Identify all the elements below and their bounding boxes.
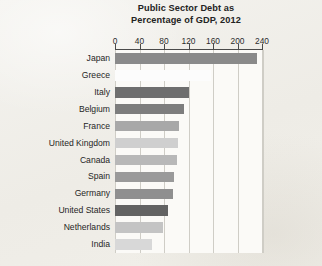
bar-spain xyxy=(115,172,174,183)
bar-row: Italy xyxy=(0,84,322,101)
chart-figure: Public Sector Debt as Percentage of GDP,… xyxy=(0,0,322,266)
bar-label-germany: Germany xyxy=(0,185,110,202)
chart-title: Public Sector Debt as Percentage of GDP,… xyxy=(96,3,276,26)
bar-netherlands xyxy=(115,222,163,233)
bar-row: India xyxy=(0,236,322,253)
bar-row: United Kingdom xyxy=(0,135,322,152)
bar-india xyxy=(115,239,152,250)
bar-row: United States xyxy=(0,202,322,219)
chart-title-line-2: Percentage of GDP, 2012 xyxy=(96,15,276,27)
bar-row: Canada xyxy=(0,152,322,169)
bar-label-united-kingdom: United Kingdom xyxy=(0,135,110,152)
bar-label-italy: Italy xyxy=(0,84,110,101)
chart-title-line-1: Public Sector Debt as xyxy=(96,3,276,15)
bar-label-belgium: Belgium xyxy=(0,101,110,118)
bar-row: Netherlands xyxy=(0,219,322,236)
bar-row: Spain xyxy=(0,168,322,185)
bar-greece xyxy=(115,70,211,81)
bar-canada xyxy=(115,155,177,166)
bar-italy xyxy=(115,87,189,98)
bar-label-india: India xyxy=(0,236,110,253)
bar-row: Belgium xyxy=(0,101,322,118)
bar-germany xyxy=(115,189,173,200)
bar-row: France xyxy=(0,118,322,135)
bar-united-states xyxy=(115,205,168,216)
bar-belgium xyxy=(115,104,184,115)
bar-label-netherlands: Netherlands xyxy=(0,219,110,236)
bar-row: Germany xyxy=(0,185,322,202)
bar-row: Greece xyxy=(0,67,322,84)
bar-label-spain: Spain xyxy=(0,168,110,185)
bar-label-greece: Greece xyxy=(0,67,110,84)
bar-japan xyxy=(115,53,257,64)
bar-label-france: France xyxy=(0,118,110,135)
bar-france xyxy=(115,121,179,132)
bar-row: Japan xyxy=(0,50,322,67)
bar-label-japan: Japan xyxy=(0,50,110,67)
bar-label-united-states: United States xyxy=(0,202,110,219)
bar-united-kingdom xyxy=(115,138,178,149)
bar-label-canada: Canada xyxy=(0,152,110,169)
